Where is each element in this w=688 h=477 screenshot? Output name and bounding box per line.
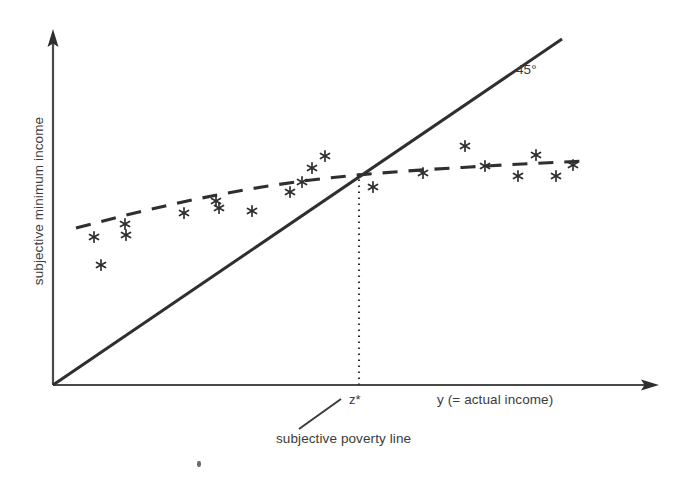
scatter-point bbox=[90, 232, 99, 242]
y-axis-label: subjective minimum income bbox=[31, 117, 46, 285]
forty-five-degree-label: 45° bbox=[516, 62, 537, 77]
scatter-point bbox=[532, 150, 541, 160]
z-star-label: z* bbox=[349, 392, 361, 407]
scatter-point bbox=[286, 187, 295, 197]
y-axis-label-container: subjective minimum income bbox=[29, 91, 47, 311]
forty-five-degree-line bbox=[53, 39, 562, 385]
annotation-leader-line bbox=[299, 399, 341, 429]
figure-canvas: subjective minimum income y (= actual in… bbox=[0, 0, 688, 477]
scatter-point bbox=[321, 151, 330, 161]
scatter-point bbox=[514, 171, 523, 181]
reference-line-label-container: 45° bbox=[516, 60, 537, 78]
scatter-point bbox=[180, 208, 189, 218]
chart-plot-area bbox=[0, 0, 688, 477]
annotation-caption-container: subjective poverty line bbox=[276, 431, 411, 446]
axes-group bbox=[48, 29, 660, 391]
x-axis-label-container: y (= actual income) bbox=[437, 390, 553, 408]
scatter-point bbox=[248, 206, 257, 216]
scatter-point bbox=[122, 230, 131, 240]
scatter-point bbox=[369, 182, 378, 192]
scatter-point bbox=[552, 171, 561, 181]
subjective-poverty-line-caption: subjective poverty line bbox=[276, 431, 411, 446]
x-axis-label: y (= actual income) bbox=[437, 392, 553, 407]
scan-speck-artifact bbox=[197, 461, 201, 467]
scatter-point bbox=[97, 260, 106, 270]
scatter-point bbox=[308, 163, 317, 173]
scatter-point bbox=[121, 219, 130, 229]
scatter-point bbox=[461, 141, 470, 151]
threshold-label-container: z* bbox=[349, 392, 361, 407]
